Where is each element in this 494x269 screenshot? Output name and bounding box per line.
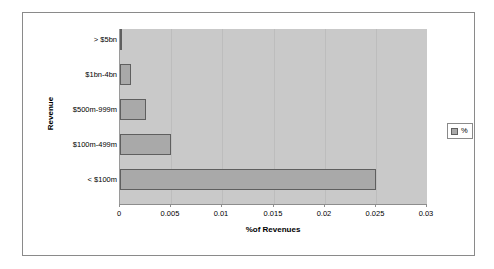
x-axis-tick-label: 0.03 [403, 209, 449, 218]
bar[interactable] [120, 169, 376, 190]
plot-area [119, 29, 427, 204]
x-axis-tick [273, 204, 274, 207]
bar[interactable] [120, 99, 146, 120]
x-axis-tick [170, 204, 171, 207]
bar[interactable] [120, 134, 171, 155]
x-axis-tick-label: 0.015 [250, 209, 296, 218]
chart-frame: Revenue > $5bn $1bn-4bn $500m-999m $100m… [22, 12, 475, 256]
x-axis-tick [221, 204, 222, 207]
bar-swatch-icon [451, 128, 458, 135]
x-axis-tick-label: 0.005 [147, 209, 193, 218]
x-axis-tick [324, 204, 325, 207]
y-axis-tick-label: < $100m [49, 175, 117, 184]
y-axis-tick-labels: > $5bn $1bn-4bn $500m-999m $100m-499m < … [49, 29, 117, 193]
x-axis-tick [119, 204, 120, 207]
y-axis-tick-label: $1bn-4bn [49, 70, 117, 79]
x-axis-tick [375, 204, 376, 207]
x-axis-tick-label: 0.02 [301, 209, 347, 218]
chart-legend[interactable]: % [447, 123, 473, 139]
y-axis-tick-label: $500m-999m [49, 105, 117, 114]
gridline [376, 29, 377, 204]
x-axis-tick-label: 0.025 [352, 209, 398, 218]
x-axis-tick [426, 204, 427, 207]
x-axis-tick-label: 0.01 [198, 209, 244, 218]
bar[interactable] [120, 64, 131, 85]
bar[interactable] [120, 29, 122, 50]
y-axis-tick-label: > $5bn [49, 35, 117, 44]
legend-entry-label: % [461, 127, 468, 135]
x-axis-tick-label: 0 [96, 209, 142, 218]
y-axis-tick-label: $100m-499m [49, 140, 117, 149]
x-axis-title: %of Revenues [119, 225, 427, 234]
